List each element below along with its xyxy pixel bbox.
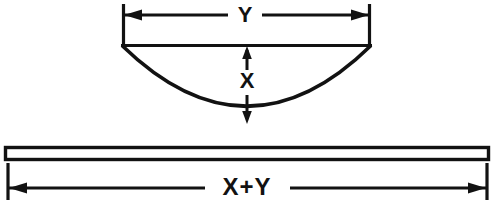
arrowhead-x-down xyxy=(242,111,252,124)
arrowhead-xy-left xyxy=(9,183,27,194)
label-bottom-dimension: X+Y xyxy=(222,173,271,200)
diagram-root: Y X xyxy=(0,0,499,212)
arrowhead-y-right xyxy=(351,10,369,21)
label-vertical-dimension: X xyxy=(240,68,255,93)
straight-bar-outline xyxy=(6,148,489,160)
label-top-dimension: Y xyxy=(238,2,253,27)
arc-assembly: Y X xyxy=(121,2,372,124)
arrowhead-y-left xyxy=(124,10,142,21)
bar-assembly: X+Y xyxy=(6,148,489,201)
arrowhead-xy-right xyxy=(468,183,486,194)
arrowhead-x-up xyxy=(242,46,252,59)
technical-diagram-canvas: Y X xyxy=(0,0,499,212)
